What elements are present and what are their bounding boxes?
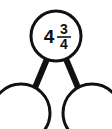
bottom-left-node[interactable] [0,84,50,129]
number-bond-canvas: 4 3 4 [0,0,112,129]
bottom-right-node[interactable] [63,84,112,129]
top-node-denominator: 4 [60,36,68,52]
top-node-whole-number: 4 [44,26,55,47]
top-node-numerator: 3 [60,21,68,37]
connector-right [66,59,79,90]
top-node[interactable] [31,11,81,61]
number-bond-diagram: 4 3 4 [0,0,112,129]
connector-left [34,59,47,90]
